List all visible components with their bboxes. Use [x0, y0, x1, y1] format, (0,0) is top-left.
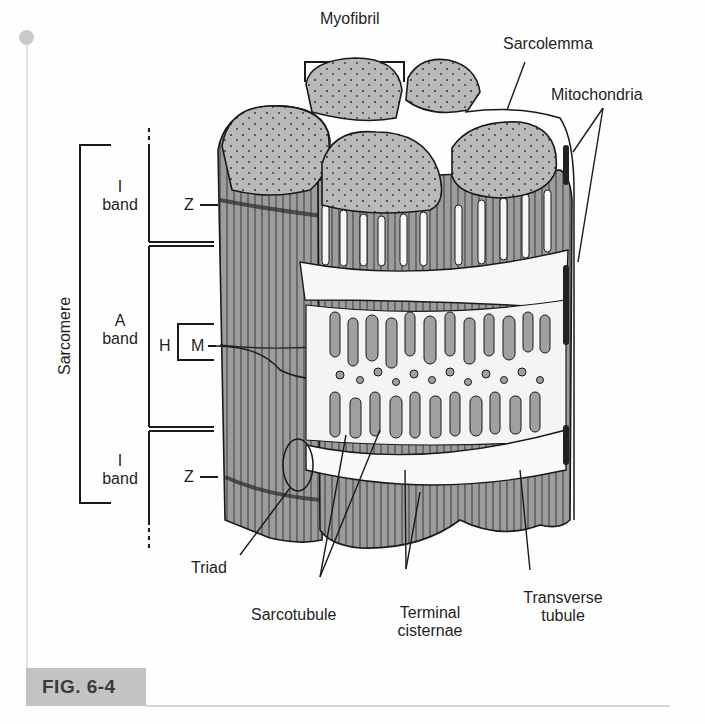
myofibril-cap [406, 59, 480, 112]
mitochondrion [563, 265, 569, 345]
label-sarcotubule: Sarcotubule [251, 606, 336, 624]
label-transverse-tubule: Transverse tubule [513, 589, 613, 625]
label-i-band-bottom: I band [95, 452, 145, 488]
label-triad: Triad [191, 559, 227, 577]
label-i-band-top: I band [95, 178, 145, 214]
textbook-page: Myofibril Sarcolemma Mitochondria Sarcom… [0, 0, 705, 724]
figure-label: FIG. 6-4 [26, 668, 146, 706]
label-a-band: A band [95, 312, 145, 348]
label-sarcolemma: Sarcolemma [503, 35, 593, 53]
label-myofibril: Myofibril [320, 10, 380, 28]
mitochondrion [563, 425, 569, 465]
label-z-line-bottom: Z [184, 468, 194, 486]
myofibril-cap [306, 58, 402, 120]
label-sarcomere: Sarcomere [56, 297, 74, 375]
label-mitochondria: Mitochondria [551, 86, 643, 104]
label-m-line: M [191, 337, 204, 355]
label-h-zone: H [159, 337, 171, 355]
label-terminal-cisternae: Terminal cisternae [385, 604, 475, 640]
myofibril-cap [322, 132, 442, 213]
mitochondrion [563, 145, 569, 185]
myofibril-cap [222, 106, 329, 195]
figure-rule [146, 705, 670, 707]
label-z-line-top: Z [184, 196, 194, 214]
myofibril-cap [452, 122, 556, 198]
